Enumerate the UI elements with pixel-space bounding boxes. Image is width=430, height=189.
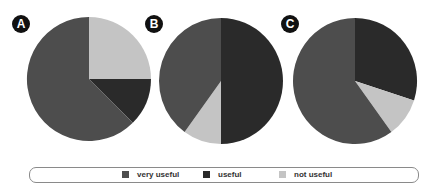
legend-item-very-useful: very useful <box>122 169 179 181</box>
legend: very useful useful not useful <box>29 167 419 183</box>
pie-chart-c <box>292 17 418 145</box>
slice-not-useful <box>89 17 151 79</box>
legend-item-not-useful: not useful <box>279 169 332 181</box>
very-useful-swatch-icon <box>122 171 129 178</box>
pie-chart-b <box>158 17 284 145</box>
legend-item-useful: useful <box>203 169 242 181</box>
not-useful-swatch-icon <box>279 171 286 178</box>
slice-useful <box>221 18 283 144</box>
pie-chart-a <box>26 16 152 142</box>
legend-label: useful <box>218 170 242 179</box>
legend-label: very useful <box>137 170 179 179</box>
useful-swatch-icon <box>203 171 210 178</box>
legend-label: not useful <box>294 170 332 179</box>
